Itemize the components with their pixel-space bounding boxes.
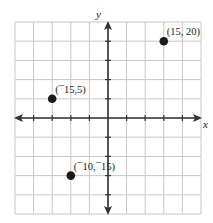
point-marker	[67, 171, 76, 180]
point-label: (¯15,5)	[55, 84, 86, 96]
y-axis-label: y	[95, 8, 101, 20]
data-point: (15, 20)	[160, 26, 201, 45]
data-point: (¯15,5)	[48, 84, 86, 103]
axes	[14, 21, 202, 215]
x-axis-label: x	[202, 118, 208, 130]
point-marker	[48, 95, 57, 104]
point-marker	[160, 37, 169, 46]
point-label: (15, 20)	[167, 26, 201, 38]
point-label: (¯10,¯15)	[74, 161, 116, 173]
coordinate-plane: x y (15, 20)(¯15,5)(¯10,¯15)	[0, 0, 213, 223]
